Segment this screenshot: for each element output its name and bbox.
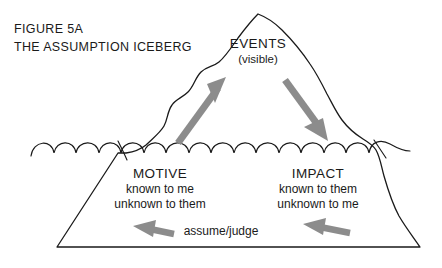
waterline [31, 140, 410, 160]
motive-line-1: known to me [95, 182, 225, 196]
impact-title: IMPACT [250, 166, 386, 181]
figure-number: FIGURE 5A [14, 22, 192, 38]
events-title: EVENTS [208, 36, 308, 51]
motive-title: MOTIVE [95, 166, 225, 181]
motive-to-events-arrow [178, 77, 226, 143]
events-label-group: EVENTS (visible) [208, 36, 308, 65]
figure-title: THE ASSUMPTION ICEBERG [14, 40, 192, 56]
impact-line-1: known to them [250, 182, 386, 196]
assume-judge-label: assume/judge [178, 224, 264, 239]
events-to-impact-arrow [285, 80, 328, 141]
impact-to-motive-arrow [303, 218, 350, 235]
figure-caption: FIGURE 5A THE ASSUMPTION ICEBERG [14, 22, 192, 57]
iceberg-diagram-canvas: FIGURE 5A THE ASSUMPTION ICEBERG EVENTS … [0, 0, 442, 268]
impact-label-group: IMPACT known to them unknown to me [250, 166, 386, 211]
impact-line-2: unknown to me [250, 197, 386, 211]
assume-judge-left-arrow [133, 220, 174, 237]
motive-line-2: unknown to them [95, 197, 225, 211]
motive-label-group: MOTIVE known to me unknown to them [95, 166, 225, 211]
events-subtitle: (visible) [208, 53, 308, 65]
